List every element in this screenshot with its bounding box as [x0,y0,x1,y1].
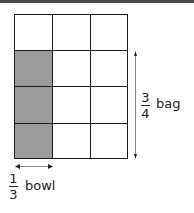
horizontal-fraction-denominator: 3 [9,188,17,201]
horizontal-fraction-label: 1 3 [9,172,18,201]
vertical-unit-label: bag [156,96,180,111]
vertical-fraction-label: 3 4 [141,91,150,120]
horizontal-unit-label: bowl [25,178,55,193]
grid-cell-r0-c0 [14,14,53,51]
grid-cell-r1-c1 [52,50,91,87]
grid-cell-r3-c0-shaded [14,123,53,159]
vertical-double-arrow-icon [134,51,137,159]
grid-cell-r2-c0-shaded [14,86,53,124]
grid-cell-r1-c0-shaded [14,50,53,87]
grid-cell-r0-c2 [90,14,128,51]
top-border-bar [0,0,194,3]
horizontal-double-arrow-icon [15,164,53,169]
grid-cell-r3-c1 [52,123,91,159]
grid-cell-r3-c2 [90,123,128,159]
horizontal-fraction-numerator: 1 [9,172,17,185]
vertical-fraction-numerator: 3 [141,91,149,104]
grid-cell-r2-c1 [52,86,91,124]
grid-cell-r1-c2 [90,50,128,87]
grid-cell-r2-c2 [90,86,128,124]
vertical-fraction-denominator: 4 [141,107,149,120]
fraction-grid [14,14,128,159]
grid-cell-r0-c1 [52,14,91,51]
